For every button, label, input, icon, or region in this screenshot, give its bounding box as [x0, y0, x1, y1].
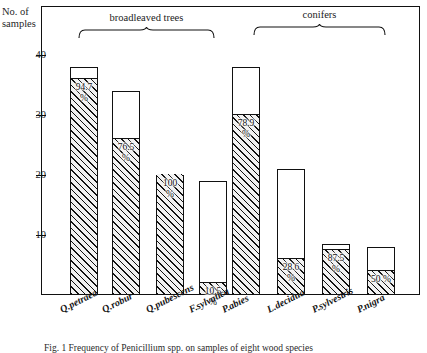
figure-caption: Fig. 1 Frequency of Penicillium spp. on … [44, 343, 424, 353]
bracket-broadleaved-icon [78, 27, 215, 39]
y-tick-20: 20 [0, 170, 46, 180]
figure-container: No. of samples 10203040 broadleaved tree… [0, 0, 427, 353]
bar-p-nigra[interactable] [367, 247, 395, 295]
bar-fill-infested [157, 174, 183, 294]
bar-p-abies[interactable] [232, 67, 260, 295]
bar-q-pubescens[interactable] [156, 175, 184, 295]
group-label-broadleaved: broadleaved trees [78, 12, 215, 23]
y-tick-mark [36, 175, 46, 176]
y-tick-mark [36, 55, 46, 56]
y-tick-mark [36, 235, 46, 236]
bar-fill-infested [113, 138, 139, 294]
x-label-p-nigra: P.nigra [355, 292, 386, 315]
bar-fill-infested [71, 78, 97, 294]
y-tick-mark [36, 115, 46, 116]
bar-q-robur[interactable] [112, 91, 140, 295]
y-tick-30: 30 [0, 110, 46, 120]
y-tick-10: 10 [0, 230, 46, 240]
group-label-conifers: conifers [253, 9, 386, 20]
bracket-conifers-icon [253, 24, 386, 36]
y-tick-40: 40 [0, 50, 46, 60]
bar-l-decidua[interactable] [277, 169, 305, 295]
bar-fill-infested [233, 114, 259, 294]
bar-f-sylvatica[interactable] [199, 181, 227, 295]
bar-q-petraea[interactable] [70, 67, 98, 295]
